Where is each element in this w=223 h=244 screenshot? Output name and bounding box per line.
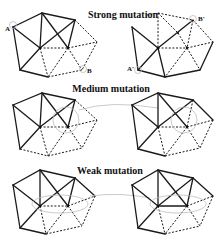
mesh-medium-after (132, 93, 213, 156)
mesh-strong-after: B' A' (127, 13, 213, 77)
connector-medium (79, 104, 158, 110)
panel-title-weak: Weak mutation (77, 165, 143, 176)
panel-strong: Strong mutation A B (5, 9, 213, 77)
mesh-weak-after (132, 170, 213, 234)
vertex-label-B-prime: B' (198, 15, 205, 23)
mesh-strong-before: A B (5, 13, 97, 77)
vertex-label-B: B (87, 67, 92, 75)
mesh-medium-before (13, 93, 97, 156)
vertex-label-A: A (5, 25, 10, 33)
panel-title-medium: Medium mutation (72, 83, 150, 94)
highlight-circle-medium-left (53, 107, 79, 133)
panel-weak: Weak mutation (13, 165, 213, 234)
vertex-label-A-prime: A' (127, 65, 134, 73)
mutation-diagram: Strong mutation A B (0, 0, 223, 244)
connector-weak (90, 194, 150, 198)
mesh-weak-before (13, 170, 95, 234)
panel-medium: Medium mutation (13, 83, 213, 156)
highlight-circle-medium-right (171, 107, 197, 133)
